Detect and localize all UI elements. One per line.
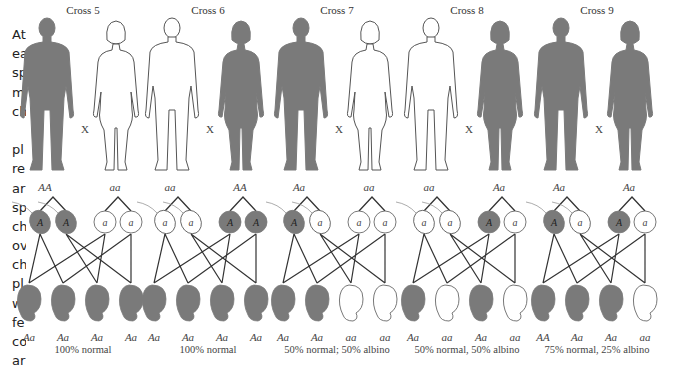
normal-embryo-icon xyxy=(271,285,295,321)
father-genotype: Aa xyxy=(284,181,314,193)
offspring-genotype: aa xyxy=(370,331,400,343)
male-figure-icon xyxy=(404,18,457,170)
female-figure-icon xyxy=(347,21,392,170)
albino-embryo-icon xyxy=(503,285,527,321)
cross-symbol: X xyxy=(462,123,476,135)
egg-icon: A xyxy=(245,211,267,233)
offspring-genotype: aa xyxy=(336,331,366,343)
normal-embryo-icon xyxy=(599,285,623,321)
albino-embryo-icon xyxy=(339,285,363,321)
svg-text:a: a xyxy=(129,217,134,228)
normal-embryo-icon xyxy=(401,285,425,321)
normal-embryo-icon xyxy=(531,285,555,321)
offspring-genotype: Aa xyxy=(82,331,112,343)
egg-icon: A xyxy=(608,211,630,233)
egg-icon: a xyxy=(504,211,526,233)
normal-embryo-icon xyxy=(85,285,109,321)
svg-text:a: a xyxy=(189,217,194,228)
svg-text:A: A xyxy=(226,217,234,228)
svg-text:A: A xyxy=(62,217,70,228)
cross-panel-9: Cross 9 A a A a X Aa Aa AA Aa Aa aa xyxy=(532,0,662,368)
father-genotype: Aa xyxy=(544,181,574,193)
normal-embryo-icon xyxy=(305,285,329,321)
egg-icon: a xyxy=(374,211,396,233)
offspring-genotype: Aa xyxy=(207,331,237,343)
svg-text:a: a xyxy=(422,217,427,228)
svg-text:a: a xyxy=(643,217,648,228)
father-genotype: AA xyxy=(30,181,60,193)
female-figure-icon xyxy=(93,21,138,170)
svg-text:A: A xyxy=(615,217,623,228)
normal-embryo-icon xyxy=(176,285,200,321)
normal-embryo-icon xyxy=(17,285,41,321)
male-figure-icon xyxy=(534,18,587,170)
normal-embryo-icon xyxy=(565,285,589,321)
mother-genotype: Aa xyxy=(484,181,514,193)
offspring-genotype: Aa xyxy=(596,331,626,343)
svg-text:A: A xyxy=(550,217,558,228)
cross-panel-7: Cross 7 A a a a X Aa aa Aa Aa aa aa xyxy=(272,0,402,368)
svg-text:a: a xyxy=(357,217,362,228)
svg-text:a: a xyxy=(103,217,108,228)
svg-text:a: a xyxy=(448,217,453,228)
normal-embryo-icon xyxy=(244,285,268,321)
cross-panel-8: Cross 8 a a A a X aa Aa Aa aa Aa aa xyxy=(402,0,532,368)
normal-embryo-icon xyxy=(210,285,234,321)
father-genotype: aa xyxy=(155,181,185,193)
svg-text:a: a xyxy=(513,217,518,228)
female-figure-icon xyxy=(218,21,263,170)
fertilization-lines xyxy=(29,234,131,283)
normal-embryo-icon xyxy=(51,285,75,321)
offspring-genotype: aa xyxy=(432,331,462,343)
offspring-genotype: Aa xyxy=(139,331,169,343)
father-genotype: aa xyxy=(414,181,444,193)
sperm-icon: A xyxy=(266,202,308,237)
sperm-icon: A xyxy=(526,202,568,237)
egg-icon: a xyxy=(348,211,370,233)
svg-text:A: A xyxy=(252,217,260,228)
offspring-genotype: Aa xyxy=(562,331,592,343)
egg-icon: a xyxy=(94,211,116,233)
svg-text:a: a xyxy=(163,217,168,228)
normal-embryo-icon xyxy=(469,285,493,321)
offspring-genotype: Aa xyxy=(14,331,44,343)
fertilization-lines xyxy=(283,234,385,283)
svg-text:a: a xyxy=(578,217,583,228)
offspring-genotype: Aa xyxy=(241,331,271,343)
female-figure-icon xyxy=(477,21,522,170)
cross-result: 75% normal, 25% albino xyxy=(512,344,682,355)
cross-panel-5: Cross 5 A A a a X AA aa Aa Aa Aa Aa xyxy=(18,0,148,368)
male-figure-icon xyxy=(145,18,198,170)
sperm-icon: A xyxy=(12,202,54,237)
egg-icon: a xyxy=(120,211,142,233)
female-figure-icon xyxy=(607,21,652,170)
offspring-genotype: AA xyxy=(528,331,558,343)
male-figure-icon xyxy=(274,18,327,170)
offspring-genotype: Aa xyxy=(268,331,298,343)
fertilization-lines xyxy=(413,234,515,283)
offspring-genotype: aa xyxy=(630,331,660,343)
svg-text:A: A xyxy=(485,217,493,228)
egg-icon: a xyxy=(634,211,656,233)
offspring-genotype: Aa xyxy=(48,331,78,343)
offspring-genotype: Aa xyxy=(466,331,496,343)
svg-text:a: a xyxy=(318,217,323,228)
cross-panel-6: Cross 6 a a A A X aa AA Aa Aa Aa Aa xyxy=(143,0,273,368)
albino-embryo-icon xyxy=(633,285,657,321)
mother-genotype: aa xyxy=(100,181,130,193)
sperm-icon: a xyxy=(137,202,179,237)
offspring-genotype: Aa xyxy=(173,331,203,343)
fertilization-lines xyxy=(543,234,645,283)
fertilization-lines xyxy=(154,234,256,283)
offspring-genotype: aa xyxy=(500,331,530,343)
albino-embryo-icon xyxy=(373,285,397,321)
cross-symbol: X xyxy=(203,123,217,135)
egg-icon: A xyxy=(478,211,500,233)
egg-icon: A xyxy=(219,211,241,233)
normal-embryo-icon xyxy=(142,285,166,321)
cross-symbol: X xyxy=(332,123,346,135)
male-figure-icon xyxy=(20,18,73,170)
offspring-genotype: Aa xyxy=(398,331,428,343)
svg-text:a: a xyxy=(383,217,388,228)
albino-embryo-icon xyxy=(435,285,459,321)
